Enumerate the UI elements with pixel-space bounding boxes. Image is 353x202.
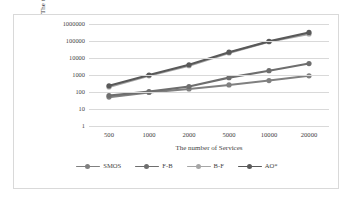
legend-marker-dot — [196, 164, 201, 169]
legend-item-ao-[interactable]: AO* — [238, 163, 278, 170]
data-point-marker — [106, 83, 111, 88]
y-axis-tick-label: 10000 — [69, 55, 85, 61]
y-axis-tick-label: 1000 — [72, 72, 85, 78]
data-point-marker — [266, 78, 271, 83]
y-axis-title: The time of Matching(S) — [40, 0, 47, 29]
data-point-marker — [186, 84, 191, 89]
legend-marker-dot — [85, 164, 90, 169]
data-point-marker — [226, 50, 231, 55]
y-axis-tick-label: 10 — [79, 106, 85, 112]
legend-swatch-icon — [187, 163, 211, 170]
x-axis-tick-label: 2000 — [182, 132, 195, 139]
y-axis-tick-label: 100000 — [66, 38, 85, 44]
y-axis-tick-label: 1 — [82, 123, 85, 129]
data-point-marker — [306, 30, 311, 35]
gridline — [89, 109, 329, 110]
legend-item-b-f[interactable]: B-F — [187, 163, 224, 170]
y-axis-tick-label: 1000000 — [63, 21, 85, 27]
x-axis-tick-label: 10000 — [261, 132, 277, 139]
legend-label: F-B — [162, 163, 172, 170]
data-point-marker — [106, 93, 111, 98]
x-axis-tick-label: 5000 — [222, 132, 235, 139]
data-point-marker — [226, 82, 231, 87]
legend-marker-dot — [247, 164, 252, 169]
legend-swatch-icon — [76, 163, 100, 170]
gridline — [89, 24, 329, 25]
legend-item-f-b[interactable]: F-B — [135, 163, 172, 170]
gridline — [89, 75, 329, 76]
x-axis-tick-label: 500 — [104, 132, 114, 139]
plot-area: 1101001000100001000001000000 50010002000… — [89, 24, 329, 126]
data-point-marker — [306, 61, 311, 66]
gridline — [89, 92, 329, 93]
legend-marker-dot — [144, 164, 149, 169]
legend-swatch-icon — [135, 163, 159, 170]
x-axis-tick-label: 1000 — [142, 132, 155, 139]
legend-swatch-icon — [238, 163, 262, 170]
chart-legend: SMOSF-BB-FAO* — [14, 163, 340, 170]
legend-item-smos[interactable]: SMOS — [76, 163, 121, 170]
legend-label: AO* — [265, 163, 278, 170]
legend-label: B-F — [214, 163, 224, 170]
data-point-marker — [186, 62, 191, 67]
gridline — [89, 58, 329, 59]
x-axis-title: The number of Services — [89, 145, 329, 152]
y-axis-tick-label: 100 — [75, 89, 85, 95]
data-point-marker — [266, 68, 271, 73]
legend-label: SMOS — [103, 163, 121, 170]
gridline — [89, 126, 329, 127]
x-axis-tick-label: 20000 — [301, 132, 317, 139]
gridline — [89, 41, 329, 42]
chart-container: The time of Matching(S) 1101001000100001… — [13, 14, 339, 189]
